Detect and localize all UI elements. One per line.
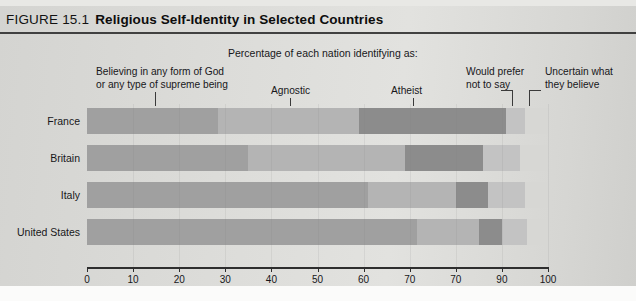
bar-segment-atheist (359, 108, 507, 134)
gridline (548, 104, 549, 267)
gridline (225, 104, 226, 267)
leader-line-uncertain-horizontal (529, 90, 541, 91)
x-axis-tick-label: 60 (358, 274, 369, 285)
legend-caption-uncertain-line2: they believe (545, 79, 613, 92)
title-divider (0, 32, 636, 34)
x-axis-tick (271, 267, 272, 272)
bar-segment-atheist (456, 182, 488, 208)
gridline (410, 104, 411, 267)
gridline (456, 104, 457, 267)
legend-caption-agnostic: Agnostic (271, 85, 310, 98)
page-bottom-strip (0, 286, 636, 301)
gridline (271, 104, 272, 267)
chart-subtitle: Percentage of each nation identifying as… (228, 47, 418, 59)
x-axis-tick-label: 10 (128, 274, 139, 285)
x-axis-tick (410, 267, 411, 272)
x-axis-tick-label: 90 (496, 274, 507, 285)
category-axis-labels: FranceBritainItalyUnited States (0, 104, 80, 267)
bar-segment-atheist (405, 145, 483, 171)
legend-caption-prefer-line2: not to say (466, 79, 524, 92)
bar-segment-belief (87, 219, 417, 245)
bar-segment-agnostic (368, 182, 456, 208)
category-label-italy: Italy (61, 189, 80, 201)
x-axis-tick (502, 267, 503, 272)
figure-title-bar: FIGURE 15.1Religious Self-Identity in Se… (6, 10, 626, 30)
category-label-france: France (47, 115, 80, 127)
bar-segment-prefer-not-to-say (488, 182, 525, 208)
legend-caption-prefer-line1: Would prefer (466, 66, 524, 79)
gridline (318, 104, 319, 267)
x-axis-tick-label: 30 (220, 274, 231, 285)
x-axis-tick (133, 267, 134, 272)
bar-segment-uncertain (525, 182, 548, 208)
page-top-strip (0, 0, 636, 6)
x-axis-tick (179, 267, 180, 272)
x-axis-tick (225, 267, 226, 272)
x-axis-tick-label: 0 (84, 274, 90, 285)
x-axis-tick (87, 267, 88, 272)
page-title: Religious Self-Identity in Selected Coun… (95, 12, 383, 27)
gridline (133, 104, 134, 267)
x-axis-tick-label: 20 (174, 274, 185, 285)
bar-segment-belief (87, 108, 218, 134)
gridline (502, 104, 503, 267)
bar-segment-belief (87, 182, 368, 208)
x-axis-tick-label: 70 (450, 274, 461, 285)
bar-segment-agnostic (417, 219, 479, 245)
bar-segment-prefer-not-to-say (506, 108, 524, 134)
x-axis-tick (456, 267, 457, 272)
legend-caption-belief: Believing in any form of God or any type… (96, 66, 228, 91)
x-axis-tick-label: 50 (312, 274, 323, 285)
x-axis-tick (364, 267, 365, 272)
bar-segment-atheist (479, 219, 502, 245)
legend-caption-belief-line1: Believing in any form of God (96, 66, 228, 79)
bar-segment-prefer-not-to-say (502, 219, 527, 245)
x-axis-tick (318, 267, 319, 272)
legend-caption-uncertain-line1: Uncertain what (545, 66, 613, 79)
bar-segment-uncertain (520, 145, 548, 171)
gridline (179, 104, 180, 267)
bar-segment-agnostic (218, 108, 359, 134)
category-label-britain: Britain (50, 152, 80, 164)
legend-caption-prefer: Would prefer not to say (466, 66, 524, 91)
plot-area (87, 104, 548, 267)
legend-caption-belief-line2: or any type of supreme being (96, 79, 228, 92)
x-axis-tick (548, 267, 549, 272)
legend-caption-uncertain: Uncertain what they believe (545, 66, 613, 91)
bar-segment-belief (87, 145, 248, 171)
figure-container: FIGURE 15.1Religious Self-Identity in Se… (0, 0, 636, 301)
bar-segment-uncertain (527, 219, 548, 245)
x-axis-tick-label: 100 (540, 274, 557, 285)
gridline (364, 104, 365, 267)
category-label-united-states: United States (17, 226, 80, 238)
legend-caption-atheist: Atheist (391, 85, 422, 98)
figure-number: FIGURE 15.1 (6, 12, 89, 27)
x-axis-tick-label: 40 (266, 274, 277, 285)
bar-segment-uncertain (525, 108, 548, 134)
x-axis-tick-label: 70 (404, 274, 415, 285)
